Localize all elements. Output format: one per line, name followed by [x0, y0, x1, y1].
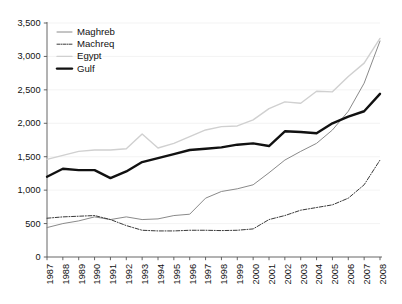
y-tick-label: 3,000	[18, 51, 41, 61]
legend-label-gulf: Gulf	[77, 63, 95, 74]
legend-label-egypt: Egypt	[77, 50, 102, 61]
y-tick-label: 3,500	[18, 18, 41, 28]
x-tick-label: 1994	[156, 264, 166, 284]
x-tick-label: 1992	[124, 264, 134, 284]
y-tick-label: 1,500	[18, 152, 41, 162]
x-tick-label: 1999	[235, 264, 245, 284]
x-tick-label: 2003	[299, 264, 309, 284]
y-tick-label: 500	[25, 219, 40, 229]
y-axis-ticks: 05001,0001,5002,0002,5003,0003,500	[18, 18, 48, 262]
x-tick-label: 1987	[45, 264, 55, 284]
x-tick-label: 1995	[172, 264, 182, 284]
x-tick-label: 2005	[330, 264, 340, 284]
series-line-maghreb	[47, 41, 380, 228]
x-tick-label: 1997	[203, 264, 213, 284]
x-tick-label: 2002	[283, 264, 293, 284]
x-tick-label: 2008	[378, 264, 388, 284]
y-tick-label: 2,500	[18, 85, 41, 95]
series-line-gulf	[47, 94, 380, 178]
x-tick-label: 2006	[346, 264, 356, 284]
legend-label-maghreb: Maghreb	[77, 26, 115, 37]
x-tick-label: 2007	[362, 264, 372, 284]
line-chart: 05001,0001,5002,0002,5003,0003,500 19871…	[0, 0, 402, 304]
x-tick-label: 2001	[267, 264, 277, 284]
x-axis-ticks: 1987198819891990199119921993199419951996…	[45, 257, 388, 284]
x-tick-label: 1996	[188, 264, 198, 284]
chart-canvas: 05001,0001,5002,0002,5003,0003,500 19871…	[0, 0, 402, 304]
legend-label-machreq: Machreq	[77, 38, 114, 49]
x-tick-label: 1988	[61, 264, 71, 284]
x-tick-label: 1990	[92, 264, 102, 284]
x-tick-label: 1998	[219, 264, 229, 284]
series-lines	[47, 38, 380, 231]
y-tick-label: 1,000	[18, 185, 41, 195]
chart-legend: MaghrebMachreqEgyptGulf	[57, 26, 115, 74]
y-tick-label: 0	[35, 252, 40, 262]
x-tick-label: 1989	[77, 264, 87, 284]
x-tick-label: 2000	[251, 264, 261, 284]
x-tick-label: 1993	[140, 264, 150, 284]
x-tick-label: 2004	[314, 264, 324, 284]
x-tick-label: 1991	[108, 264, 118, 284]
y-tick-label: 2,000	[18, 118, 41, 128]
